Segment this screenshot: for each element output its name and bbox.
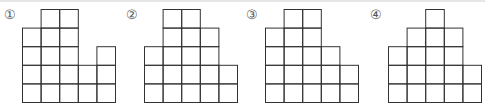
unit-square <box>60 47 79 66</box>
block-diagram <box>240 0 361 106</box>
unit-square <box>97 47 116 66</box>
unit-square <box>163 65 182 84</box>
unit-square <box>389 65 408 84</box>
unit-square <box>200 84 219 103</box>
unit-square <box>284 47 303 66</box>
unit-square <box>266 47 285 66</box>
unit-square <box>463 84 482 103</box>
unit-square <box>78 84 97 103</box>
unit-square <box>41 65 60 84</box>
unit-square <box>303 47 322 66</box>
unit-square <box>41 47 60 66</box>
unit-square <box>426 84 445 103</box>
unit-square <box>97 84 116 103</box>
unit-square <box>60 84 79 103</box>
unit-square <box>389 84 408 103</box>
unit-square <box>163 28 182 47</box>
block-diagram <box>360 0 485 106</box>
unit-square <box>163 47 182 66</box>
unit-square <box>321 65 340 84</box>
unit-square <box>303 84 322 103</box>
unit-square <box>303 10 322 29</box>
unit-square <box>60 28 79 47</box>
unit-square <box>266 28 285 47</box>
unit-square <box>41 28 60 47</box>
unit-square <box>284 84 303 103</box>
unit-square <box>182 84 201 103</box>
unit-square <box>200 28 219 47</box>
unit-square <box>23 84 42 103</box>
unit-square <box>219 65 238 84</box>
unit-square <box>340 65 359 84</box>
unit-square <box>145 47 164 66</box>
unit-square <box>321 84 340 103</box>
figure-2: ② <box>120 0 241 106</box>
figure-1: ① <box>0 0 121 106</box>
unit-square <box>163 10 182 29</box>
unit-square <box>303 28 322 47</box>
unit-square <box>444 65 463 84</box>
unit-square <box>444 47 463 66</box>
unit-square <box>97 65 116 84</box>
unit-square <box>303 65 322 84</box>
unit-square <box>145 65 164 84</box>
unit-square <box>23 47 42 66</box>
unit-square <box>41 84 60 103</box>
unit-square <box>266 84 285 103</box>
unit-square <box>182 65 201 84</box>
unit-square <box>41 10 60 29</box>
unit-square <box>200 47 219 66</box>
unit-square <box>444 28 463 47</box>
unit-square <box>426 10 445 29</box>
unit-square <box>219 84 238 103</box>
unit-square <box>407 84 426 103</box>
unit-square <box>266 65 285 84</box>
figure-4: ④ <box>360 0 481 106</box>
unit-square <box>23 65 42 84</box>
unit-square <box>426 28 445 47</box>
unit-square <box>284 28 303 47</box>
unit-square <box>182 47 201 66</box>
unit-square <box>200 65 219 84</box>
unit-square <box>407 47 426 66</box>
unit-square <box>426 65 445 84</box>
unit-square <box>321 47 340 66</box>
unit-square <box>407 28 426 47</box>
unit-square <box>78 65 97 84</box>
unit-square <box>284 65 303 84</box>
unit-square <box>60 10 79 29</box>
unit-square <box>284 10 303 29</box>
unit-square <box>23 28 42 47</box>
unit-square <box>407 65 426 84</box>
unit-square <box>426 47 445 66</box>
unit-square <box>145 84 164 103</box>
unit-square <box>182 28 201 47</box>
unit-square <box>463 65 482 84</box>
block-diagram <box>0 0 121 106</box>
block-diagram <box>120 0 241 106</box>
figure-3: ③ <box>240 0 361 106</box>
unit-square <box>163 84 182 103</box>
unit-square <box>340 84 359 103</box>
unit-square <box>444 84 463 103</box>
unit-square <box>182 10 201 29</box>
unit-square <box>389 47 408 66</box>
unit-square <box>60 65 79 84</box>
